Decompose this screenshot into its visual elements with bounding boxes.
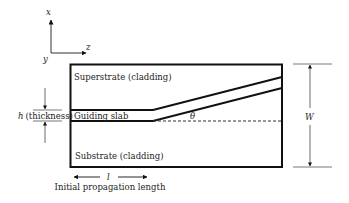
thickness-indicator: h(thickness) [18, 88, 73, 143]
substrate-label: Substrate (cladding) [75, 151, 164, 161]
angle-theta-label: θ [190, 111, 195, 121]
thickness-text: (thickness) [25, 111, 72, 121]
z-axis-label: z [85, 42, 91, 52]
x-axis-label: x [46, 7, 51, 17]
width-indicator: W [293, 64, 332, 167]
coordinate-axes: x z y [42, 7, 91, 64]
thickness-label: h(thickness) [18, 111, 73, 121]
waveguide-diagram: x z y Superstrate (cladding) Guiding sla… [0, 0, 349, 203]
guiding-slab-label: Guiding slab [74, 111, 129, 121]
superstrate-label: Superstrate (cladding) [74, 72, 172, 82]
y-axis-label: y [42, 54, 48, 64]
length-caption: Initial propagation length [55, 182, 166, 192]
length-indicator: l Initial propagation length [55, 172, 166, 192]
width-label: W [305, 112, 315, 122]
thickness-symbol: h [18, 111, 23, 121]
length-symbol: l [107, 172, 110, 182]
